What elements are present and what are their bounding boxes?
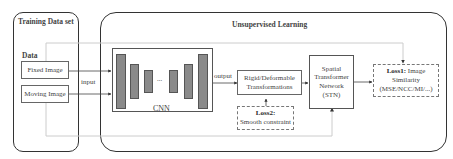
- stn-line4: (STN): [323, 91, 341, 99]
- fixed-image-label: Fixed Image: [27, 66, 62, 75]
- cnn-ellipsis: ...: [157, 75, 162, 83]
- stn-line2: Transformer: [314, 73, 349, 81]
- fixed-image-box: Fixed Image: [21, 61, 69, 79]
- moving-image-label: Moving Image: [24, 90, 65, 99]
- loss1-line1: Image: [408, 67, 426, 75]
- cnn-layer-4: [169, 70, 178, 93]
- cnn-layer-6: [198, 54, 208, 109]
- loss1-line3: (MSE/NCC/MI/...): [379, 85, 432, 93]
- loss2-line1: Smooth constraint: [240, 118, 291, 126]
- cnn-label: CNN: [153, 104, 170, 113]
- moving-image-box: Moving Image: [21, 85, 69, 103]
- stn-line1: Spatial: [322, 65, 341, 73]
- output-label: output: [214, 72, 232, 80]
- transform-line1: Rigid/Deformable: [244, 74, 295, 82]
- cnn-layer-3: [144, 70, 153, 93]
- cnn-layer-5: [184, 64, 193, 99]
- loss1-box: Loss1: Image Similarity (MSE/NCC/MI/...): [373, 64, 439, 97]
- loss2-title: Loss2:: [256, 109, 275, 117]
- loss1-title: Loss1:: [387, 67, 406, 75]
- stn-box: Spatial Transformer Network (STN): [309, 55, 354, 109]
- stn-line3: Network: [319, 82, 344, 90]
- loss2-box: Loss2: Smooth constraint: [237, 106, 294, 130]
- cnn-layer-2: [130, 64, 139, 99]
- loss1-line2: Similarity: [392, 76, 420, 84]
- transform-line2: Transformations: [246, 83, 292, 91]
- input-label: input: [81, 78, 95, 86]
- transformations-box: Rigid/DeformableTransformations: [237, 70, 302, 95]
- cnn-layer-1: [116, 54, 126, 109]
